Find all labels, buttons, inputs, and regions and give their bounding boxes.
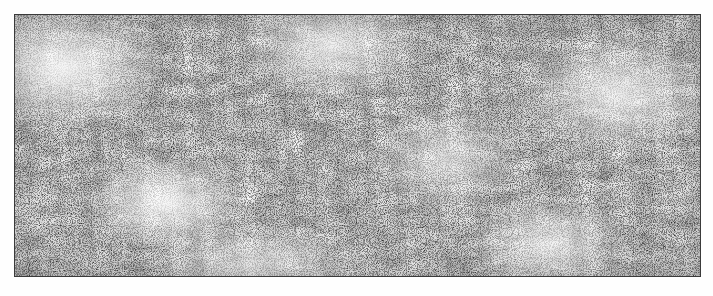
grain-layer-dither-overlay [15, 15, 700, 276]
halftone-noise-texture [15, 15, 700, 276]
figure-plate [0, 0, 713, 296]
texture-panel-frame [14, 14, 701, 277]
